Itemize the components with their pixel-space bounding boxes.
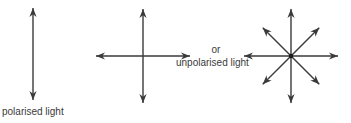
unpolarised-light-label: unpolarised light: [176, 57, 249, 69]
center-dot: [289, 54, 293, 58]
or-label: or: [208, 44, 224, 56]
polarised-light-label: polarised light: [2, 106, 64, 118]
unpolarised-light-cross-figure: [96, 9, 190, 103]
unpolarised-light-star-figure: [244, 9, 338, 103]
polarised-light-figure: [29, 8, 36, 100]
